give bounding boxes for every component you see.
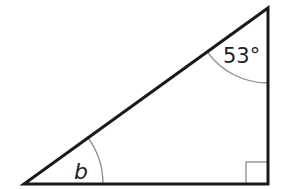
top-angle-label: 53° xyxy=(223,44,260,68)
triangle-canvas: 53° b xyxy=(0,0,286,189)
triangle-outline xyxy=(24,8,268,184)
angle-arc-b xyxy=(87,137,103,184)
angle-b-label: b xyxy=(74,159,88,184)
triangle-diagram: 53° b xyxy=(0,0,286,189)
right-angle-marker xyxy=(246,162,268,184)
